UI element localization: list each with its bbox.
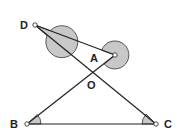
segment-DC bbox=[35, 25, 156, 124]
label-C: C bbox=[164, 118, 172, 130]
point-D bbox=[33, 23, 37, 27]
geometry-diagram: D A O B C bbox=[0, 0, 182, 136]
point-C bbox=[154, 122, 158, 126]
label-O: O bbox=[87, 79, 96, 91]
label-A: A bbox=[90, 52, 98, 64]
segment-BA bbox=[27, 55, 115, 124]
point-B bbox=[25, 122, 29, 126]
point-A bbox=[113, 53, 117, 57]
label-B: B bbox=[10, 118, 18, 130]
label-D: D bbox=[20, 19, 28, 31]
